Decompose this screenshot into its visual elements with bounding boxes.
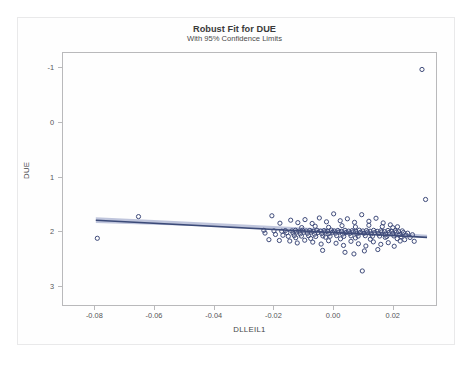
x-tick-label: -0.06 — [146, 311, 163, 320]
scatter-point — [278, 221, 282, 225]
scatter-point — [360, 269, 364, 273]
scatter-point — [423, 197, 427, 201]
scatter-point — [313, 224, 317, 228]
y-tick-mark — [58, 177, 62, 178]
scatter-point — [352, 220, 356, 224]
chart-subtitle: With 95% Confidence Limits — [0, 35, 469, 44]
x-tick-label: -0.08 — [86, 311, 103, 320]
scatter-point — [289, 218, 293, 222]
scatter-point — [356, 242, 360, 246]
scatter-point — [317, 216, 321, 220]
scatter-point — [303, 218, 307, 222]
y-tick-label: 1 — [30, 172, 54, 181]
scatter-point — [376, 247, 380, 251]
x-tick-mark — [333, 306, 334, 310]
scatter-point — [352, 252, 356, 256]
x-axis-label: DLLEIL1 — [62, 325, 437, 334]
scatter-point — [338, 219, 342, 223]
scatter-point — [295, 241, 299, 245]
scatter-point — [349, 239, 353, 243]
scatter-point — [403, 238, 407, 242]
x-tick-mark — [393, 306, 394, 310]
y-tick-mark — [58, 286, 62, 287]
plot-frame — [62, 52, 437, 306]
scatter-point — [364, 244, 368, 248]
scatter-points — [95, 67, 427, 273]
scatter-point — [338, 237, 342, 241]
scatter-point — [303, 238, 307, 242]
chart-title: Robust Fit for DUE — [0, 24, 469, 34]
title-block: Robust Fit for DUE With 95% Confidence L… — [0, 24, 469, 44]
x-tick-mark — [214, 306, 215, 310]
scatter-point — [379, 242, 383, 246]
plot-svg — [63, 53, 436, 305]
x-tick-label: -0.02 — [265, 311, 282, 320]
x-tick-mark — [154, 306, 155, 310]
scatter-point — [374, 216, 378, 220]
scatter-point — [341, 243, 345, 247]
scatter-point — [286, 234, 290, 238]
scatter-point — [277, 238, 281, 242]
scatter-point — [321, 248, 325, 252]
scatter-point — [281, 233, 285, 237]
x-tick-mark — [273, 306, 274, 310]
scatter-point — [319, 242, 323, 246]
y-axis-label: DUE — [22, 162, 31, 179]
robust-fit-chart: Robust Fit for DUE With 95% Confidence L… — [0, 0, 469, 367]
scatter-point — [288, 239, 292, 243]
plot-area — [63, 53, 436, 305]
scatter-point — [360, 213, 364, 217]
x-tick-mark — [94, 306, 95, 310]
scatter-point — [395, 237, 399, 241]
y-tick-label: 0 — [30, 117, 54, 126]
y-tick-mark — [58, 122, 62, 123]
scatter-point — [270, 214, 274, 218]
y-tick-label: 3 — [30, 282, 54, 291]
y-tick-label: 2 — [30, 227, 54, 236]
scatter-point — [386, 241, 390, 245]
scatter-point — [334, 241, 338, 245]
y-tick-mark — [58, 67, 62, 68]
scatter-point — [136, 215, 140, 219]
scatter-point — [267, 238, 271, 242]
x-tick-label: 0.02 — [386, 311, 400, 320]
scatter-point — [340, 224, 344, 228]
scatter-point — [353, 225, 357, 229]
y-tick-mark — [58, 231, 62, 232]
scatter-point — [392, 244, 396, 248]
scatter-point — [412, 239, 416, 243]
y-tick-label: -1 — [30, 62, 54, 71]
scatter-point — [324, 220, 328, 224]
x-tick-label: 0.00 — [326, 311, 340, 320]
scatter-point — [362, 249, 366, 253]
scatter-point — [395, 225, 399, 229]
scatter-point — [332, 212, 336, 216]
scatter-point — [296, 221, 300, 225]
scatter-point — [95, 236, 99, 240]
x-tick-label: -0.04 — [205, 311, 222, 320]
scatter-point — [343, 250, 347, 254]
scatter-point — [345, 217, 349, 221]
scatter-point — [420, 67, 424, 71]
